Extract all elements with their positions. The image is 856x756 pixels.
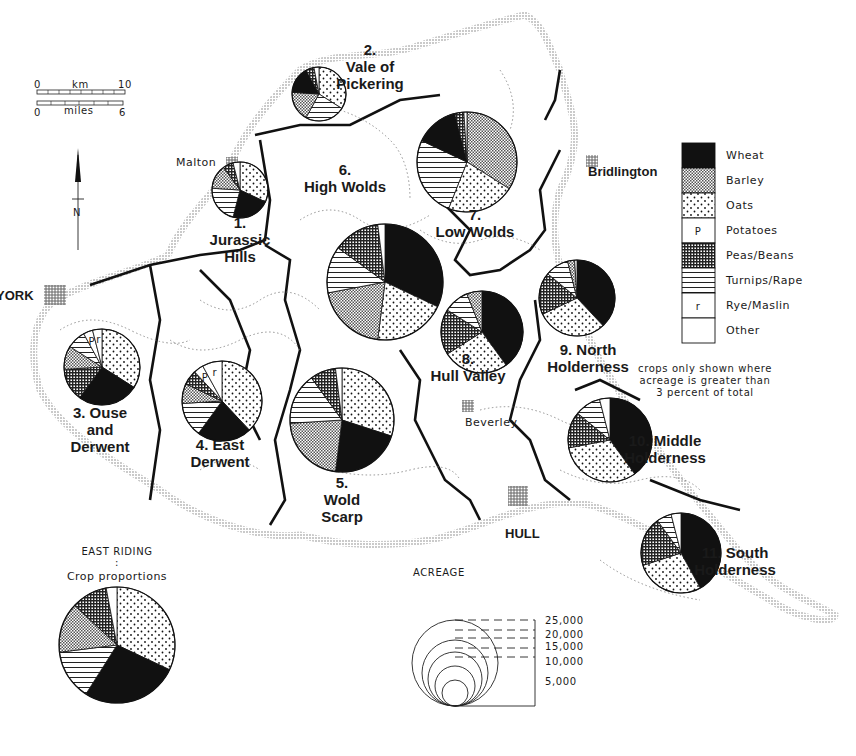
region-label: 2. (364, 41, 377, 58)
pie-wold-scarp (290, 368, 394, 472)
east-riding-title: EAST RIDING : Crop proportions (67, 546, 167, 583)
svg-text:r: r (96, 334, 101, 345)
legend-item-other: Other (682, 318, 760, 343)
svg-text:0: 0 (34, 79, 41, 90)
region-label: Vale of (346, 58, 395, 75)
region-label: Hills (224, 248, 256, 265)
york-marker (44, 285, 66, 305)
pie-north-holderness (539, 260, 615, 336)
region-label: Derwent (70, 438, 129, 455)
town-malton: Malton (176, 156, 216, 169)
legend-label: Other (726, 324, 760, 337)
map-title: AGRICULTURAL LAND USE (329, 0, 528, 1)
region-label: 8. (462, 350, 475, 367)
svg-text:25,000: 25,000 (545, 615, 584, 626)
region-label: 7. (469, 206, 482, 223)
legend-item-peas: Peas/Beans (682, 243, 794, 268)
region-label: Scarp (321, 508, 363, 525)
svg-text:5,000: 5,000 (545, 676, 577, 687)
region-label: High Wolds (304, 178, 386, 195)
town-beverley: Beverley (465, 416, 517, 429)
region-label: 10. Middle (629, 432, 702, 449)
region-label: 3. Ouse (73, 404, 127, 421)
svg-text:km: km (72, 79, 89, 90)
town-york: YORK (0, 288, 34, 303)
svg-text:20,000: 20,000 (545, 629, 584, 640)
legend-item-potatoes: PPotatoes (682, 218, 778, 243)
legend-item-rye: rRye/Maslin (682, 293, 790, 318)
svg-text:r: r (696, 301, 701, 312)
region-label: Jurassic (210, 231, 271, 248)
svg-text:Crop proportions: Crop proportions (67, 570, 167, 583)
svg-text:10: 10 (118, 79, 132, 90)
svg-text::: : (115, 557, 119, 568)
svg-text:acreage is greater than: acreage is greater than (639, 375, 770, 386)
legend-label: Oats (726, 199, 753, 212)
acreage-legend: ACREAGE 25,000 20,000 15,000 10,000 5,00… (412, 567, 584, 706)
legend-item-oats: Oats (682, 193, 753, 218)
hull-marker (508, 486, 528, 506)
north-label: N (73, 207, 81, 218)
region-label: 1. (234, 214, 247, 231)
svg-text:0: 0 (34, 107, 41, 118)
svg-text:r: r (212, 367, 217, 378)
region-label: 4. East (196, 436, 244, 453)
svg-text:P: P (695, 226, 702, 237)
region-label: 6. (339, 161, 352, 178)
legend-label: Rye/Maslin (726, 299, 790, 312)
legend-label: Wheat (726, 149, 764, 162)
town-hull: HULL (505, 526, 540, 541)
north-arrow: N (72, 148, 84, 250)
region-label: Holderness (624, 449, 706, 466)
pie-east-derwent: Pr (182, 361, 262, 441)
region-label: Pickering (336, 75, 404, 92)
legend-label: Barley (726, 174, 764, 187)
legend-item-turnips: Turnips/Rape (682, 268, 803, 293)
crop-legend: WheatBarleyOatsPPotatoesPeas/BeansTurnip… (682, 143, 803, 343)
region-label: 9. North (560, 341, 617, 358)
svg-text:15,000: 15,000 (545, 641, 584, 652)
region-label: Holderness (694, 561, 776, 578)
region-label: Wold (324, 491, 360, 508)
region-label: and (87, 421, 114, 438)
region-label: 5. (336, 474, 349, 491)
legend-label: Potatoes (726, 224, 778, 237)
svg-text:miles: miles (64, 105, 94, 116)
crop-pie-charts: PrPr (59, 67, 721, 703)
svg-text:EAST RIDING: EAST RIDING (81, 546, 152, 557)
slice-barley (290, 420, 342, 472)
pie-hull-valley (441, 291, 523, 373)
svg-text:crops only shown where: crops only shown where (638, 363, 772, 374)
scale-bar: 0 km 10 0 miles 6 (34, 79, 132, 118)
region-label: Holderness (547, 358, 629, 375)
agricultural-land-use-map: AGRICULTURAL LAND USE Malton Brid (0, 0, 856, 756)
legend-item-wheat: Wheat (682, 143, 764, 168)
region-label: Hull Valley (430, 367, 506, 384)
legend-label: Peas/Beans (726, 249, 794, 262)
pie-ouse-and-derwent: Pr (64, 329, 140, 405)
town-bridlington: Bridlington (588, 164, 657, 179)
beverley-marker (462, 400, 474, 412)
svg-text:10,000: 10,000 (545, 656, 584, 667)
pie-high-wolds (417, 112, 517, 212)
threshold-note: crops only shown where acreage is greate… (638, 363, 772, 398)
region-label: Low Wolds (436, 223, 515, 240)
region-label: Derwent (190, 453, 249, 470)
region-label: 11. South (702, 544, 769, 561)
svg-text:ACREAGE: ACREAGE (413, 567, 465, 578)
pie-jurassic-hills (212, 162, 268, 218)
pie-east-riding-total- (59, 587, 175, 703)
pie-low-wolds (327, 224, 443, 340)
legend-item-barley: Barley (682, 168, 764, 193)
svg-text:6: 6 (119, 107, 126, 118)
svg-text:3 percent of total: 3 percent of total (656, 387, 754, 398)
legend-label: Turnips/Rape (725, 274, 803, 287)
